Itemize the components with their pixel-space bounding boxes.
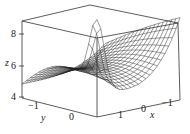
z-tick-8: 8 (11, 29, 16, 39)
x-tick-1: 1 (118, 110, 123, 120)
z-tick-6: 6 (11, 61, 16, 71)
z-tick-4: 4 (11, 92, 16, 102)
x-axis-label: x (150, 110, 154, 120)
surface-mesh (22, 18, 180, 90)
y-tick-neg1: −1 (28, 101, 39, 111)
y-axis-label: y (41, 113, 45, 123)
x-tick-0: 0 (141, 104, 146, 114)
z-axis-ticks (19, 34, 24, 97)
x-tick-neg1: −1 (162, 98, 173, 108)
y-tick-0: 0 (69, 112, 74, 122)
z-axis-label: z (5, 58, 9, 68)
surface-plot (0, 0, 190, 134)
